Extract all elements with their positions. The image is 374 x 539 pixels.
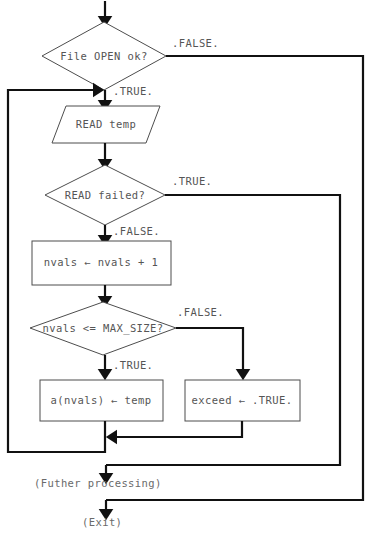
further-processing-label: (Futher processing) [34,477,162,489]
decision-read-failed-label: READ failed? [65,189,146,201]
edge-label-read-failed-false: .FALSE. [113,225,160,237]
process-store-label: a(nvals) ← temp [51,394,152,406]
edge-label-max-size-false: .FALSE. [177,306,224,318]
process-exceed-label: exceed ← .TRUE. [192,394,293,406]
edge-label-read-failed-true: .TRUE. [172,175,212,187]
edge-label-file-open-true: .TRUE. [113,85,153,97]
edge-label-max-size-true: .TRUE. [113,359,153,371]
edge-exceed-merge [112,421,242,437]
flowchart-container: File OPEN ok? .FALSE. .TRUE. READ temp R… [0,0,374,539]
exit-label: (Exit) [82,516,122,528]
decision-file-open-label: File OPEN ok? [60,50,147,62]
flowchart-canvas: File OPEN ok? .FALSE. .TRUE. READ temp R… [0,0,374,539]
process-increment-label: nvals ← nvals + 1 [44,256,158,268]
io-read-temp-label: READ temp [76,118,137,130]
edge-label-file-open-false: .FALSE. [172,37,219,49]
decision-max-size-label: nvals <= MAX_SIZE? [43,322,164,335]
edge-max-size-false [176,328,243,374]
